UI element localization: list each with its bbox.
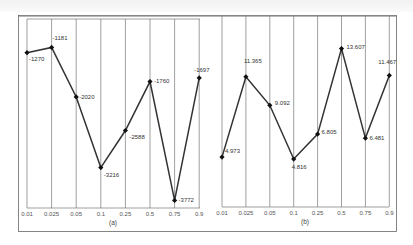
data-point-marker	[172, 198, 177, 203]
x-tick-label: 0.75	[169, 211, 181, 217]
data-label: -2588	[129, 134, 145, 140]
data-label: -1181	[53, 35, 69, 41]
x-tick-label: 0.01	[216, 210, 228, 216]
x-tick-label: 0.05	[70, 211, 82, 217]
data-label: 11.467	[378, 59, 397, 65]
data-label: 6.481	[369, 135, 385, 141]
x-tick-label: 0.25	[312, 210, 324, 216]
x-tick-label: 0.9	[195, 211, 204, 217]
panel-a: -12700.01-11810.025-20200.05-32160.1-258…	[21, 19, 210, 227]
data-label: 11.365	[244, 58, 263, 64]
data-point-marker	[339, 46, 344, 51]
data-point-marker	[147, 79, 152, 84]
x-tick-label: 0.25	[120, 211, 132, 217]
x-tick-label: 0.75	[360, 210, 372, 216]
data-label: 9.092	[275, 100, 291, 106]
x-tick-label: 0.5	[337, 210, 346, 216]
x-tick-label: 0.1	[290, 210, 299, 216]
x-tick-label: 0.025	[44, 211, 60, 217]
data-point-marker	[49, 45, 54, 50]
data-label: -1697	[194, 67, 210, 73]
data-label: 13.607	[347, 44, 366, 50]
data-label: 6.805	[322, 129, 338, 135]
data-point-marker	[387, 73, 392, 78]
x-tick-label: 0.025	[238, 210, 254, 216]
panel-caption: (a)	[109, 219, 117, 227]
data-label: -3216	[104, 172, 120, 178]
data-point-marker	[74, 94, 79, 99]
data-line	[222, 49, 389, 159]
data-label: 4.973	[225, 148, 241, 154]
panel-caption: (b)	[301, 218, 309, 226]
data-label: -1270	[29, 56, 45, 62]
data-label: -1760	[154, 78, 170, 84]
data-point-marker	[197, 75, 202, 80]
x-tick-label: 0.1	[97, 211, 106, 217]
data-label: -2020	[79, 94, 95, 100]
x-tick-label: 0.5	[146, 211, 155, 217]
x-tick-label: 0.01	[21, 211, 33, 217]
data-point-marker	[219, 154, 224, 159]
x-tick-label: 0.9	[385, 210, 394, 216]
x-tick-label: 0.05	[264, 210, 276, 216]
panel-b: 4.9730.0111.3650.0259.0920.054.8160.16.8…	[216, 16, 397, 226]
figure: -12700.01-11810.025-20200.05-32160.1-258…	[0, 0, 413, 245]
data-label: 4.816	[292, 164, 308, 170]
data-label: -3772	[179, 197, 195, 203]
data-point-marker	[363, 136, 368, 141]
data-point-marker	[24, 50, 29, 55]
